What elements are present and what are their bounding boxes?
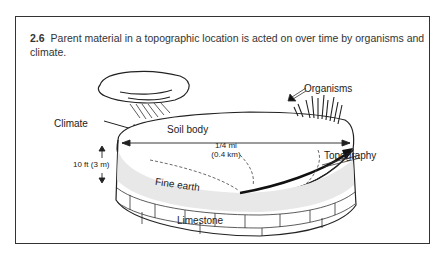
- label-distance-mi: 1/4 mi: [196, 141, 256, 150]
- cloud-icon: [98, 71, 189, 103]
- label-topography: Topography: [324, 150, 376, 161]
- label-distance-km: (0.4 km): [196, 150, 256, 159]
- label-limestone: Limestone: [177, 215, 223, 226]
- label-soil-body: Soil body: [167, 124, 208, 135]
- soil-body-illustration: [0, 0, 447, 261]
- climate-rays: [130, 102, 170, 119]
- label-distance: 1/4 mi (0.4 km): [196, 141, 256, 159]
- label-organisms: Organisms: [304, 83, 352, 94]
- label-depth: 10 ft (3 m): [73, 160, 109, 169]
- label-climate: Climate: [54, 118, 88, 129]
